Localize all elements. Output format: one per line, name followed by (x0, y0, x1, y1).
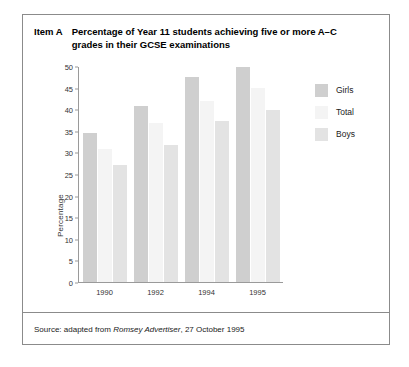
bar-total-1990 (98, 149, 112, 282)
bar-total-1994 (200, 101, 214, 282)
legend-item-boys: Boys (315, 123, 355, 145)
y-tick-mark (75, 110, 78, 111)
y-tick-mark (75, 131, 78, 132)
legend-item-girls: Girls (315, 79, 355, 101)
source-prefix: Source: adapted from (34, 325, 113, 334)
legend-swatch-total (315, 106, 328, 119)
x-tick-label: 1992 (147, 288, 164, 297)
source-suffix: , 27 October 1995 (180, 325, 244, 334)
bar-total-1992 (149, 123, 163, 282)
y-tick-mark (75, 88, 78, 89)
source-note: Source: adapted from Romsey Advertiser, … (34, 325, 244, 334)
x-axis-line (78, 282, 283, 283)
bar-boys-1990 (113, 165, 127, 282)
source-divider (23, 312, 389, 313)
legend-label: Total (336, 107, 354, 117)
y-tick-mark (75, 175, 78, 176)
bar-group: 1992 (130, 67, 181, 282)
y-tick-mark (75, 196, 78, 197)
legend-swatch-girls (315, 84, 328, 97)
legend-label: Boys (336, 129, 355, 139)
x-tick-label: 1994 (198, 288, 215, 297)
y-tick-mark (75, 67, 78, 68)
item-label: Item A (34, 25, 72, 38)
bar-girls-1995 (236, 67, 250, 282)
source-publication: Romsey Advertiser (113, 325, 180, 334)
bar-groups: 1990199219941995 (79, 67, 283, 282)
page-title: Percentage of Year 11 students achieving… (72, 25, 362, 51)
y-tick-mark (75, 153, 78, 154)
bar-girls-1994 (185, 77, 199, 282)
y-tick-mark (75, 261, 78, 262)
bar-boys-1992 (164, 145, 178, 282)
y-tick-mark (75, 283, 78, 284)
legend-label: Girls (336, 85, 353, 95)
bar-chart: Percentage 05101520253035404550 19901992… (23, 59, 391, 317)
panel-header: Item A Percentage of Year 11 students ac… (34, 25, 379, 51)
legend-item-total: Total (315, 101, 355, 123)
bar-total-1995 (251, 88, 265, 282)
y-tick-mark (75, 239, 78, 240)
bar-girls-1992 (134, 106, 148, 282)
legend-swatch-boys (315, 128, 328, 141)
y-tick-mark (75, 218, 78, 219)
item-a-panel: Item A Percentage of Year 11 students ac… (22, 14, 390, 345)
bar-boys-1995 (266, 110, 280, 282)
bar-group: 1994 (181, 67, 232, 282)
x-tick-label: 1995 (249, 288, 266, 297)
bar-boys-1994 (215, 121, 229, 282)
bar-group: 1995 (232, 67, 283, 282)
y-axis-title: Percentage (56, 156, 65, 276)
plot-area: 05101520253035404550 1990199219941995 (78, 67, 283, 283)
bar-group: 1990 (79, 67, 130, 282)
chart-legend: GirlsTotalBoys (315, 79, 355, 145)
bar-girls-1990 (83, 133, 97, 282)
x-tick-label: 1990 (96, 288, 113, 297)
